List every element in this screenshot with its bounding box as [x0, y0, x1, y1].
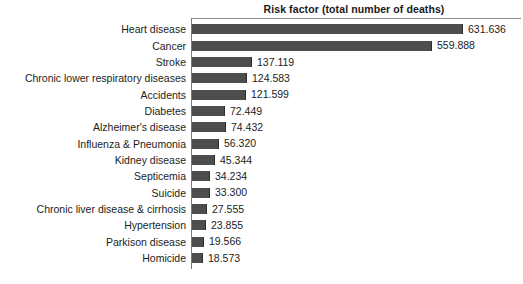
category-label: Influenza & Pneumonia	[77, 138, 186, 149]
chart-title: Risk factor (total number of deaths)	[191, 3, 517, 15]
bar-group: 27.555	[192, 204, 244, 214]
category-label: Septicemia	[134, 171, 186, 182]
bar-value-label: 121.599	[251, 89, 289, 100]
bar-value-label: 124.583	[252, 73, 290, 84]
bar	[192, 188, 210, 198]
bar-group: 18.573	[192, 253, 240, 263]
bar-row: Influenza & Pneumonia56.320	[0, 135, 523, 151]
bar-group: 124.583	[192, 73, 290, 83]
category-label: Cancer	[152, 40, 186, 51]
category-label: Parkison disease	[106, 236, 186, 247]
bar-group: 137.119	[192, 57, 294, 67]
bar	[192, 90, 246, 100]
bar	[192, 24, 463, 34]
bar-row: Kidney disease45.344	[0, 152, 523, 168]
bar	[192, 237, 204, 247]
bar-value-label: 72.449	[230, 106, 262, 117]
bar	[192, 220, 206, 230]
axis-top-line	[191, 18, 521, 19]
bar-row: Chronic lower respiratory diseases124.58…	[0, 70, 523, 86]
category-label: Alzheimer's disease	[93, 122, 186, 133]
bar	[192, 57, 252, 67]
bar-group: 33.300	[192, 188, 247, 198]
bar-value-label: 27.555	[212, 204, 244, 215]
bar	[192, 204, 207, 214]
category-label: Chronic liver disease & cirrhosis	[37, 204, 186, 215]
bar-group: 121.599	[192, 90, 289, 100]
bar-value-label: 56.320	[224, 138, 256, 149]
category-label: Diabetes	[145, 106, 186, 117]
bar	[192, 106, 225, 116]
bar	[192, 122, 226, 132]
category-label: Kidney disease	[115, 155, 186, 166]
bar-group: 19.566	[192, 237, 241, 247]
bar-value-label: 137.119	[257, 57, 294, 68]
category-label: Suicide	[152, 187, 186, 198]
category-label: Heart disease	[121, 24, 186, 35]
bar-row: Alzheimer's disease74.432	[0, 119, 523, 135]
bar-rows: Heart disease631.636Cancer559.888Stroke1…	[0, 21, 523, 266]
bar-row: Stroke137.119	[0, 54, 523, 70]
bar-group: 72.449	[192, 106, 262, 116]
bar-value-label: 33.300	[215, 187, 247, 198]
category-label: Stroke	[156, 57, 186, 68]
bar-group: 56.320	[192, 139, 256, 149]
bar-value-label: 34.234	[215, 171, 247, 182]
bar-row: Heart disease631.636	[0, 21, 523, 37]
bar-group: 631.636	[192, 24, 506, 34]
bar	[192, 73, 247, 83]
bar-row: Accidents121.599	[0, 86, 523, 102]
bar-value-label: 74.432	[231, 122, 263, 133]
bar	[192, 253, 203, 263]
bar-value-label: 559.888	[437, 40, 475, 51]
category-label: Chronic lower respiratory diseases	[25, 73, 186, 84]
bar-group: 74.432	[192, 122, 263, 132]
bar-value-label: 631.636	[468, 24, 506, 35]
bar-row: Diabetes72.449	[0, 103, 523, 119]
bar-row: Parkison disease19.566	[0, 233, 523, 249]
category-label: Accidents	[140, 89, 186, 100]
bar	[192, 171, 210, 181]
bar-row: Suicide33.300	[0, 184, 523, 200]
category-label: Hypertension	[124, 220, 186, 231]
bar-row: Homicide18.573	[0, 250, 523, 266]
bar	[192, 41, 432, 51]
bar-row: Hypertension23.855	[0, 217, 523, 233]
bar-group: 559.888	[192, 41, 475, 51]
bar-group: 34.234	[192, 171, 247, 181]
bar-value-label: 19.566	[209, 236, 241, 247]
bar-value-label: 23.855	[211, 220, 243, 231]
bar	[192, 155, 215, 165]
category-label: Homicide	[142, 253, 186, 264]
bar-value-label: 18.573	[208, 253, 240, 264]
bar-row: Cancer559.888	[0, 37, 523, 53]
bar-group: 23.855	[192, 220, 243, 230]
bar-group: 45.344	[192, 155, 252, 165]
bar-row: Chronic liver disease & cirrhosis27.555	[0, 201, 523, 217]
bar-chart: Risk factor (total number of deaths) Hea…	[0, 0, 523, 284]
bar-row: Septicemia34.234	[0, 168, 523, 184]
bar-value-label: 45.344	[220, 155, 252, 166]
bar	[192, 139, 219, 149]
